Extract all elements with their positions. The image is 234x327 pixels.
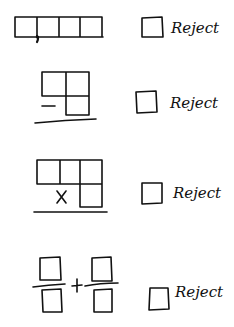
reject-checkbox-fraction-addition[interactable] bbox=[147, 286, 172, 312]
reject-checkbox-multiplication[interactable] bbox=[140, 181, 165, 206]
subtraction-boxes bbox=[35, 72, 96, 123]
fraction-addition-boxes bbox=[33, 257, 118, 312]
plus-sign-icon bbox=[72, 279, 82, 292]
reject-label-multiplication: Reject bbox=[173, 186, 221, 201]
reject-label-fraction-addition: Reject bbox=[175, 285, 223, 300]
multiplication-boxes bbox=[34, 160, 107, 212]
reject-checkbox-decimal[interactable] bbox=[140, 16, 165, 39]
reject-label-decimal: Reject bbox=[171, 21, 219, 36]
answer-line bbox=[35, 119, 96, 123]
checkbox-square-icon bbox=[147, 286, 172, 312]
times-sign-icon bbox=[57, 191, 66, 203]
checkbox-square-icon bbox=[140, 181, 165, 206]
checkbox-square-icon bbox=[134, 90, 159, 115]
checkbox-square-icon bbox=[140, 16, 165, 39]
reject-label-subtraction: Reject bbox=[170, 96, 218, 111]
sketch-canvas bbox=[0, 0, 234, 327]
reject-checkbox-subtraction[interactable] bbox=[134, 90, 159, 115]
decimal-digit-boxes bbox=[15, 17, 103, 42]
